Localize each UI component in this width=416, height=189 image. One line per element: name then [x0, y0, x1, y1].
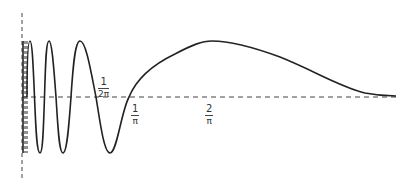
plot [0, 0, 416, 189]
label-denominator: π [206, 117, 211, 126]
label-one-over-pi: 1 π [131, 99, 139, 126]
label-numerator: 2 [205, 104, 213, 114]
label-denominator: 2π [98, 90, 109, 99]
label-two-over-pi: 2 π [205, 99, 213, 126]
label-numerator: 1 [131, 104, 139, 114]
label-one-over-two-pi: 1 2π [98, 72, 109, 99]
label-denominator: π [132, 117, 137, 126]
label-numerator: 1 [99, 77, 107, 87]
